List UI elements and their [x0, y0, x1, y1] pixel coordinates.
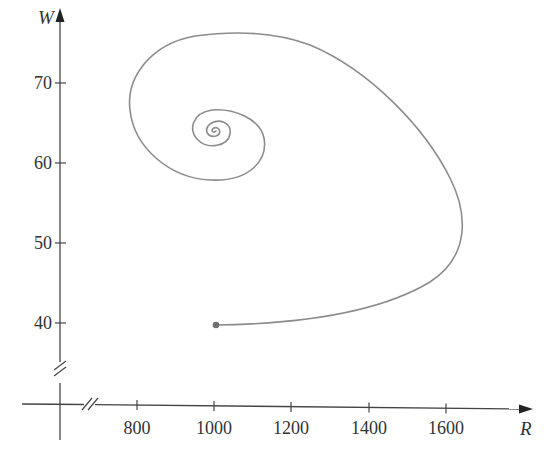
y-tick-label-50: 50 — [34, 233, 52, 253]
x-tick-label-800: 800 — [124, 418, 151, 438]
trajectory-curve — [130, 33, 463, 325]
y-axis-break-icon — [54, 361, 66, 376]
x-axis — [22, 404, 522, 409]
y-tick-label-70: 70 — [34, 73, 52, 93]
x-tick-label-1000: 1000 — [196, 418, 232, 438]
start-point-marker — [213, 322, 220, 329]
y-axis-arrow-icon — [56, 8, 65, 22]
x-axis-label: R — [519, 418, 532, 439]
x-ticks — [137, 400, 446, 414]
x-tick-label-1400: 1400 — [351, 418, 387, 438]
x-tick-label-1200: 1200 — [273, 418, 309, 438]
y-tick-label-40: 40 — [34, 313, 52, 333]
y-tick-label-60: 60 — [34, 153, 52, 173]
y-axis-label: W — [38, 7, 56, 28]
x-axis-arrow-icon — [519, 405, 533, 414]
phase-plot: 70 60 50 40 800 1000 1200 1400 1600 W R — [0, 0, 544, 449]
x-tick-label-1600: 1600 — [428, 418, 464, 438]
